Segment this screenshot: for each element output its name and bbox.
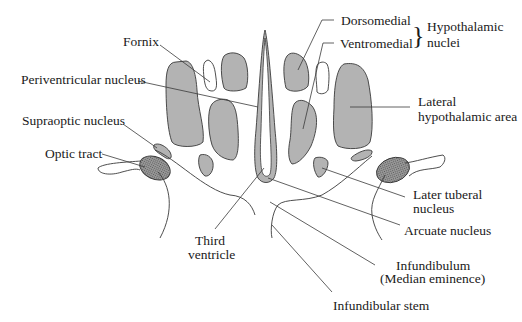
label-supraoptic: Supraoptic nucleus [22, 113, 125, 128]
ventromedial-right [289, 100, 317, 164]
optic-tract-right-arm [405, 155, 445, 176]
label-lateral-2: hypothalamic area [418, 109, 517, 124]
dorsomedial-right [284, 53, 309, 91]
leader-third-ventricle [215, 168, 264, 229]
label-third-ventricle-1: Third [195, 233, 225, 248]
label-infundibulum-2: (Median eminence) [380, 271, 485, 286]
label-periventricular: Periventricular nucleus [21, 72, 146, 87]
label-fornix: Fornix [123, 34, 159, 49]
optic-tract-left-arm [98, 161, 141, 174]
label-hypothalamic-1: Hypothalamic [427, 19, 503, 34]
tuberal-left [199, 154, 214, 176]
lateral-area-right [333, 64, 372, 149]
supraoptic-right [351, 150, 372, 161]
hypothalamus-diagram: Fornix Periventricular nucleus Supraopti… [0, 0, 522, 322]
leader-optic-tract [102, 154, 145, 167]
ventromedial-left [209, 99, 239, 160]
diagram-canvas: Fornix Periventricular nucleus Supraopti… [0, 0, 522, 322]
fornix-left [203, 60, 216, 91]
label-later-tuberal-1: Later tuberal [413, 187, 483, 202]
dorsomedial-left [221, 53, 247, 91]
label-infundibular-stem: Infundibular stem [333, 298, 430, 313]
label-ventromedial: Ventromedial [340, 36, 413, 51]
base-outline-left-curve [158, 172, 169, 238]
lateral-area-left [166, 61, 203, 147]
label-hypothalamic-2: nuclei [427, 35, 460, 50]
tuberal-right [314, 157, 328, 177]
label-lateral-1: Lateral [418, 94, 456, 109]
label-later-tuberal-2: nucleus [413, 201, 454, 216]
leader-supraoptic [123, 124, 157, 148]
base-outline-right-curve [372, 175, 385, 240]
fornix-right [316, 62, 329, 94]
leader-infundibular-stem [272, 225, 332, 292]
optic-tract-right [373, 153, 413, 187]
label-optic-tract: Optic tract [45, 146, 103, 161]
label-third-ventricle-2: ventricle [188, 247, 235, 262]
label-dorsomedial: Dorsomedial [341, 13, 411, 28]
label-arcuate: Arcuate nucleus [404, 223, 491, 238]
hypothalamic-brace: } [412, 21, 424, 50]
leader-infundibulum [270, 202, 375, 265]
